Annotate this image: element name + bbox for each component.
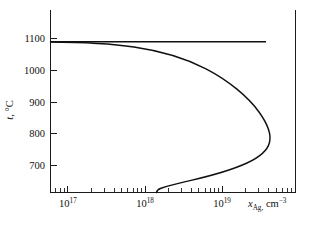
chart-canvas: 1100 1000 900 800 700 t, °C — [0, 0, 315, 227]
x-tick-label-1e19-base: 10 — [213, 198, 224, 209]
y-tick-label-900: 900 — [29, 97, 45, 108]
y-axis-title-unit: °C — [4, 100, 15, 111]
x-tick-label-1e19: 1019 — [213, 197, 231, 209]
chart-figure: 1100 1000 900 800 700 t, °C — [0, 0, 315, 227]
x-tick-label-1e18-exponent: 18 — [147, 197, 155, 205]
y-tick-label-1000: 1000 — [24, 65, 45, 76]
x-tick-label-1e18: 1018 — [136, 197, 154, 209]
y-tick-label-1100: 1100 — [24, 33, 45, 44]
y-axis-tick-labels: 1100 1000 900 800 700 — [24, 33, 45, 171]
x-axis-minor-ticks — [55, 186, 291, 193]
x-tick-label-1e17: 1017 — [59, 197, 77, 209]
series-solvus-retrograde — [51, 42, 271, 193]
y-axis-title: t, °C — [4, 100, 15, 119]
solvus-curve — [51, 42, 271, 193]
y-tick-label-700: 700 — [29, 160, 45, 171]
y-tick-label-800: 800 — [29, 128, 45, 139]
x-tick-label-1e18-base: 10 — [136, 198, 147, 209]
x-axis-title-unit-base: cm — [266, 198, 279, 209]
x-tick-label-1e17-exponent: 17 — [70, 197, 78, 205]
x-tick-label-1e17-base: 10 — [59, 198, 70, 209]
y-axis-ticks — [51, 39, 58, 166]
axes-frame — [51, 10, 296, 193]
x-axis-title-unit-exponent: −3 — [279, 197, 287, 205]
x-axis-title-subscript: Ag — [253, 204, 262, 212]
x-tick-label-1e19-exponent: 19 — [224, 197, 232, 205]
svg-text:xAg, cm−3: xAg, cm−3 — [247, 197, 287, 212]
svg-text:t, °C: t, °C — [4, 100, 15, 119]
x-axis-title: xAg, cm−3 — [247, 197, 287, 212]
x-axis-tick-labels: 1017 1018 1019 — [59, 197, 231, 209]
